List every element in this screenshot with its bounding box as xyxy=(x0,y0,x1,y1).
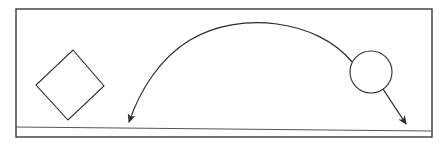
drop-arrow xyxy=(383,89,406,124)
diagram-svg xyxy=(0,0,447,144)
diagram-canvas xyxy=(0,0,447,144)
ground-line xyxy=(16,127,432,131)
diamond-icon xyxy=(36,50,104,120)
arc-trajectory-arrow xyxy=(129,23,352,122)
circle-icon xyxy=(350,51,392,93)
